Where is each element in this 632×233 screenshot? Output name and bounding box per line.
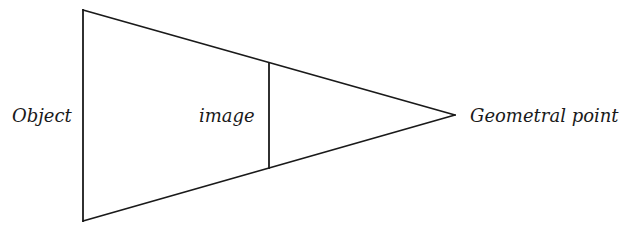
image-label: image bbox=[199, 107, 255, 125]
diagram-canvas: Object image Geometral point bbox=[0, 0, 632, 233]
geometral-point-label: Geometral point bbox=[470, 107, 619, 125]
object-label: Object bbox=[12, 107, 72, 125]
